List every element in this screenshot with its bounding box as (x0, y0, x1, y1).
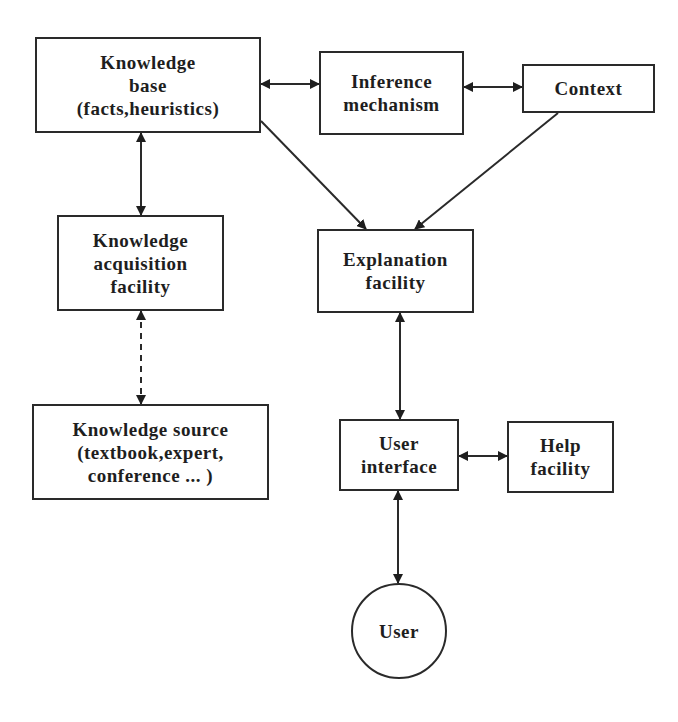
node-label-line: acquisition (93, 252, 187, 275)
node-user: User (351, 583, 447, 679)
node-inference-mechanism: Inferencemechanism (319, 51, 464, 135)
node-label-line: Help (540, 434, 581, 457)
node-label-line: User (379, 620, 419, 643)
node-label-line: Knowledge (100, 51, 195, 74)
node-label-line: User (379, 432, 419, 455)
node-label-line: Knowledge source (73, 418, 229, 441)
node-context: Context (522, 64, 655, 113)
node-label-line: facility (111, 275, 171, 298)
node-label-line: facility (531, 457, 591, 480)
node-label-line: Knowledge (93, 229, 188, 252)
node-label-line: (textbook,expert, (77, 441, 224, 464)
node-knowledge-source: Knowledge source(textbook,expert,confere… (32, 404, 269, 500)
node-label-line: Inference (351, 70, 432, 93)
edge-knowledge-base-to-explanation-facility (261, 121, 366, 229)
expert-system-architecture-diagram: Knowledgebase(facts,heuristics)Inference… (0, 0, 678, 722)
node-label-line: Context (555, 77, 623, 100)
node-label-line: facility (366, 271, 426, 294)
node-label-line: mechanism (343, 93, 439, 116)
node-help-facility: Helpfacility (507, 421, 614, 493)
node-user-interface: Userinterface (339, 419, 459, 491)
node-label-line: (facts,heuristics) (77, 97, 220, 120)
node-knowledge-base: Knowledgebase(facts,heuristics) (35, 37, 261, 133)
node-explanation-facility: Explanationfacility (317, 229, 474, 313)
node-knowledge-acquisition-facility: Knowledgeacquisitionfacility (57, 215, 224, 311)
node-label-line: interface (361, 455, 437, 478)
node-label-line: base (129, 74, 167, 97)
node-label-line: Explanation (343, 248, 448, 271)
node-label-line: conference ... ) (88, 464, 213, 487)
